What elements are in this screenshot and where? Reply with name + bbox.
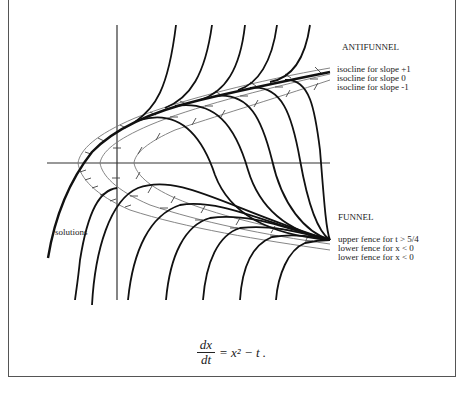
- isoclines: [78, 68, 330, 250]
- funnel-label: FUNNEL: [338, 212, 374, 222]
- denominator: dt: [201, 353, 211, 367]
- derivative-fraction: dx dt: [197, 338, 215, 367]
- isocline-slope-plus1: [78, 68, 330, 250]
- solutions-label: solutions: [55, 227, 88, 237]
- equation-rhs: = x² − t .: [219, 345, 266, 361]
- solution-up-3: [200, 25, 245, 100]
- solution-left-1: [75, 188, 117, 300]
- isocline-ticks: [80, 67, 321, 241]
- solution-rise-3: [166, 217, 330, 300]
- solution-down-3: [215, 96, 330, 240]
- solution-curves: [48, 25, 330, 305]
- antifunnel-label: ANTIFUNNEL: [342, 42, 399, 52]
- isocline-slope-0: [100, 74, 330, 244]
- solution-rise-5: [240, 235, 330, 300]
- numerator: dx: [200, 338, 212, 352]
- lower-fence-label-2: lower fence for x < 0: [338, 252, 414, 262]
- slope-field-plot: [0, 0, 471, 393]
- solution-down-5: [285, 80, 330, 240]
- differential-equation: dx dt = x² − t .: [197, 338, 266, 367]
- isocline-slope-minus1-label: isocline for slope -1: [337, 82, 409, 92]
